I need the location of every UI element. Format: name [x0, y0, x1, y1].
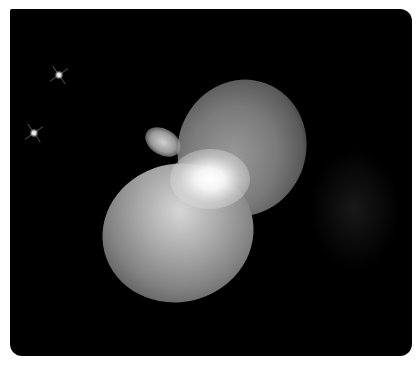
star-1: [55, 71, 63, 79]
nebula-image: [10, 9, 412, 356]
faint-haze: [310, 149, 400, 269]
central-star: [170, 149, 250, 209]
star-2: [30, 129, 38, 137]
